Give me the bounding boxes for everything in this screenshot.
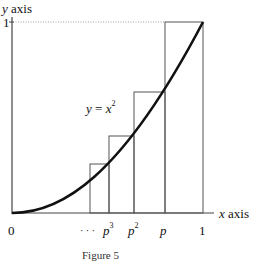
rect-1	[165, 22, 203, 213]
y-axis-label: y axis	[2, 2, 32, 15]
x-tick-0: 0	[8, 224, 15, 237]
x-tick-p2: p2	[128, 224, 139, 237]
p2-exp: 2	[135, 221, 139, 230]
x-tick-p: p	[160, 224, 167, 237]
x-tick-1: 1	[199, 224, 206, 237]
curve-label-exp: 2	[111, 99, 115, 108]
p2-base: p	[128, 223, 135, 238]
curve-label-eq: =	[95, 101, 102, 116]
y-var: y	[2, 1, 8, 16]
parabola-curve	[12, 22, 203, 213]
y-tick-label-1: 1	[3, 16, 10, 29]
figure-caption: Figure 5	[82, 250, 119, 261]
x-axis-label: x axis	[219, 207, 249, 220]
p3-exp: 3	[110, 221, 114, 230]
curve-label: y = x2	[86, 102, 115, 115]
p3-base: p	[103, 223, 110, 238]
curve-label-y: y	[86, 101, 92, 116]
x-var: x	[219, 206, 225, 221]
y-axis-word: axis	[11, 1, 32, 16]
x-tick-p3: p3	[103, 224, 114, 237]
x-tick-dots: · · ·	[80, 226, 95, 236]
x-axis-word: axis	[228, 206, 249, 221]
